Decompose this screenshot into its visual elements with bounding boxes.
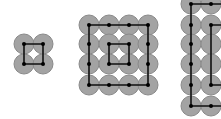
node-dot: [209, 23, 213, 27]
grid-circle-diagram: [0, 0, 221, 119]
node-dot: [22, 42, 26, 46]
grid-partial: [181, 0, 221, 116]
node-dot: [189, 83, 193, 87]
node-dot: [127, 23, 131, 27]
node-dot: [146, 62, 150, 66]
node-dot: [107, 62, 111, 66]
node-dot: [209, 2, 213, 6]
node-dot: [107, 83, 111, 87]
connection-path: [89, 25, 148, 85]
node-dot: [189, 62, 193, 66]
node-dot: [87, 23, 91, 27]
node-dot: [41, 42, 45, 46]
node-dot: [87, 62, 91, 66]
node-dot: [146, 83, 150, 87]
node-dot: [189, 2, 193, 6]
node-dot: [22, 62, 26, 66]
node-dot: [189, 42, 193, 46]
node-dot: [189, 23, 193, 27]
node-dot: [146, 42, 150, 46]
node-dot: [146, 23, 150, 27]
node-dot: [127, 62, 131, 66]
grid-4x4: [79, 15, 158, 95]
node-dot: [107, 23, 111, 27]
node-dot: [189, 104, 193, 108]
node-dot: [127, 83, 131, 87]
node-dot: [107, 42, 111, 46]
node-dot: [209, 104, 213, 108]
node-dot: [127, 42, 131, 46]
grid-2x2: [14, 34, 53, 74]
node-dot: [87, 83, 91, 87]
node-dot: [41, 62, 45, 66]
node-dot: [209, 83, 213, 87]
node-dot: [87, 42, 91, 46]
